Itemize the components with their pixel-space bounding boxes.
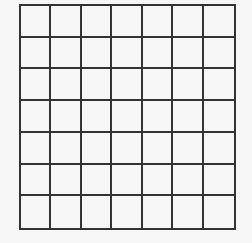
grid-cell	[82, 133, 112, 165]
grid-cell	[143, 69, 173, 101]
grid-cell	[173, 69, 203, 101]
grid-cell	[21, 6, 51, 38]
grid-cell	[112, 165, 142, 197]
grid-cell	[143, 165, 173, 197]
grid-cell	[204, 69, 234, 101]
grid-cell	[204, 101, 234, 133]
grid-cell	[82, 6, 112, 38]
grid-cell	[204, 6, 234, 38]
grid-cell	[82, 165, 112, 197]
grid-cell	[51, 133, 81, 165]
grid-cell	[51, 69, 81, 101]
grid-cell	[21, 101, 51, 133]
grid-cell	[173, 6, 203, 38]
grid-cell	[204, 38, 234, 70]
grid-cell	[21, 133, 51, 165]
grid-cell	[51, 6, 81, 38]
grid-cell	[173, 38, 203, 70]
grid-cell	[204, 165, 234, 197]
grid-cell	[82, 69, 112, 101]
grid-cell	[51, 196, 81, 228]
grid-cell	[112, 196, 142, 228]
grid-cell	[51, 101, 81, 133]
grid-cell	[21, 69, 51, 101]
grid-cell	[21, 38, 51, 70]
grid-cell	[112, 38, 142, 70]
grid-cell	[143, 6, 173, 38]
grid-cell	[21, 165, 51, 197]
grid-cell	[173, 196, 203, 228]
grid-cell	[21, 196, 51, 228]
grid-cell	[173, 165, 203, 197]
grid-cell	[112, 6, 142, 38]
grid-cell	[143, 133, 173, 165]
grid-cell	[112, 69, 142, 101]
grid-cell	[82, 196, 112, 228]
grid-cell	[173, 101, 203, 133]
grid-cell	[173, 133, 203, 165]
grid-cell	[51, 165, 81, 197]
grid-cell	[204, 133, 234, 165]
grid-cell	[82, 38, 112, 70]
grid-cell	[51, 38, 81, 70]
grid-cell	[204, 196, 234, 228]
empty-grid	[19, 4, 236, 230]
grid-cell	[143, 196, 173, 228]
grid-cell	[143, 101, 173, 133]
grid-cell	[82, 101, 112, 133]
grid-cell	[112, 101, 142, 133]
grid-cell	[143, 38, 173, 70]
grid-cell	[112, 133, 142, 165]
